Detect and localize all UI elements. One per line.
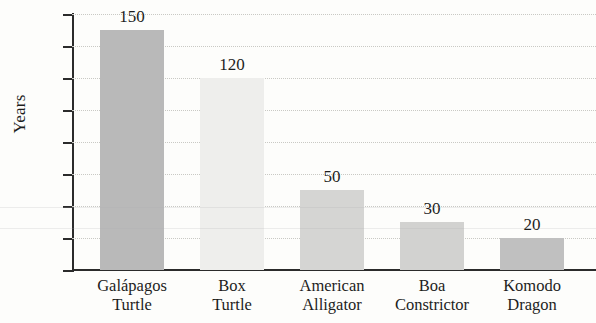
bar — [400, 222, 464, 270]
y-axis-tick — [63, 206, 72, 208]
y-axis-tick — [63, 174, 72, 176]
x-axis-tick-label: GalápagosTurtle — [79, 276, 185, 315]
bar-chart: Years 160140120100806040200150120503020 … — [0, 0, 596, 323]
x-axis-tick-label: KomodoDragon — [479, 276, 585, 315]
plot-area: 160140120100806040200150120503020 — [72, 14, 596, 270]
y-axis-tick — [63, 110, 72, 112]
bar-value-label: 150 — [82, 8, 182, 25]
x-axis-tick-label-line: Box — [179, 276, 285, 295]
x-axis-tick-label: AmericanAlligator — [279, 276, 385, 315]
bar-value-label: 50 — [282, 168, 382, 185]
x-axis-tick-label-line: Turtle — [179, 295, 285, 314]
bar-value-label: 20 — [482, 216, 582, 233]
x-axis-tick-label: BoxTurtle — [179, 276, 285, 315]
x-axis-tick-label-line: Komodo — [479, 276, 585, 295]
y-axis-tick — [63, 142, 72, 144]
x-axis-tick-label-line: Constrictor — [379, 295, 485, 314]
bar-value-label: 30 — [382, 200, 482, 217]
y-axis-tick — [63, 238, 72, 240]
y-axis-tick — [63, 14, 72, 16]
bar-value-label: 120 — [182, 56, 282, 73]
x-axis-tick-label-line: Galápagos — [79, 276, 185, 295]
x-axis-tick-label-line: Boa — [379, 276, 485, 295]
x-axis-tick-label-line: Dragon — [479, 295, 585, 314]
y-axis-tick — [63, 78, 72, 80]
x-axis-tick-label-line: American — [279, 276, 385, 295]
x-axis-tick-label-line: Alligator — [279, 295, 385, 314]
bar — [300, 190, 364, 270]
bar — [100, 30, 164, 270]
y-axis-tick — [63, 270, 72, 272]
bar — [500, 238, 564, 270]
x-axis-tick-label: BoaConstrictor — [379, 276, 485, 315]
y-axis-tick — [63, 46, 72, 48]
x-axis-tick-label-line: Turtle — [79, 295, 185, 314]
y-axis-title: Years — [10, 74, 30, 154]
bar — [200, 78, 264, 270]
